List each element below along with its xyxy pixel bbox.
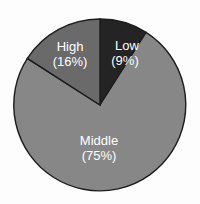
- pie-label-high: High: [57, 39, 84, 54]
- pie-chart-figure: ECONOMICS Low (9%) Middle (75%) High (16…: [0, 0, 200, 204]
- pie-label-middle: Middle: [80, 133, 118, 148]
- pie-value-middle: (75%): [82, 148, 117, 163]
- pie-label-low: Low: [115, 38, 139, 53]
- pie-chart-svg: Low (9%) Middle (75%) High (16%): [0, 0, 200, 204]
- pie-value-high: (16%): [53, 54, 88, 69]
- pie-value-low: (9%): [111, 53, 138, 68]
